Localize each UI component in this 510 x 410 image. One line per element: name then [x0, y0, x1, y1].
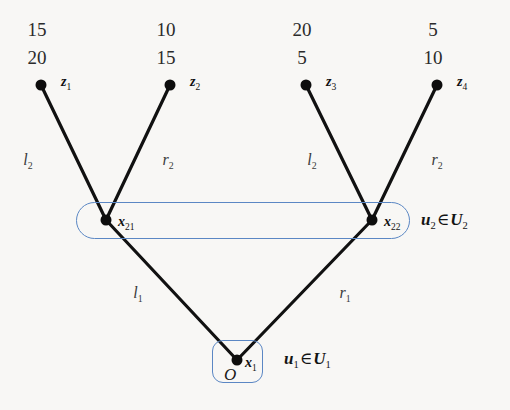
- leaf-weight-top-z1: 15: [28, 20, 47, 39]
- edge-label-l2-b: l2: [307, 152, 316, 171]
- leaf-weight-top-z2: 10: [157, 20, 176, 39]
- node-label-x22: x22: [384, 215, 401, 232]
- edge-label-l2-a: l2: [23, 152, 32, 171]
- node-dot-z4: [432, 80, 443, 91]
- node-label-x21: x21: [118, 215, 135, 232]
- group-label-u2: u2∈U2: [421, 211, 468, 232]
- node-dot-x21: [101, 215, 112, 226]
- node-dot-x22: [367, 215, 378, 226]
- node-label-z2: z2: [190, 75, 200, 92]
- node-label-z3: z3: [326, 75, 336, 92]
- edge-label-l1: l1: [133, 285, 142, 304]
- edge-x21-z2: [106, 85, 170, 220]
- node-label-z4: z4: [457, 75, 467, 92]
- leaf-weight-top-z3: 20: [293, 20, 312, 39]
- group-label-u1: u1∈U1: [284, 350, 331, 371]
- edge-label-r2-a: r2: [162, 152, 173, 171]
- edge-label-r1: r1: [339, 285, 350, 304]
- node-dot-z2: [165, 80, 176, 91]
- edge-x1-x22: [237, 220, 372, 360]
- leaf-weight-bottom-z3: 5: [297, 48, 307, 67]
- leaf-weight-bottom-z4: 10: [424, 48, 443, 67]
- edge-x1-x21: [106, 220, 237, 360]
- leaf-weight-bottom-z2: 15: [157, 48, 176, 67]
- node-dot-z3: [301, 80, 312, 91]
- leaf-weight-top-z4: 5: [428, 20, 438, 39]
- edge-x22-z4: [372, 85, 437, 220]
- node-dot-x1: [232, 355, 243, 366]
- edge-label-r2-b: r2: [431, 152, 442, 171]
- origin-label: O: [224, 366, 236, 383]
- node-label-z1: z1: [61, 75, 71, 92]
- edge-x21-z1: [41, 85, 106, 220]
- tree-diagram-figure: 1520z11015z2205z3510z4x21x22Ox1l2r2l2r2l…: [0, 0, 510, 410]
- leaf-weight-bottom-z1: 20: [28, 48, 47, 67]
- node-dot-z1: [36, 80, 47, 91]
- node-label-x1: x1: [245, 356, 257, 373]
